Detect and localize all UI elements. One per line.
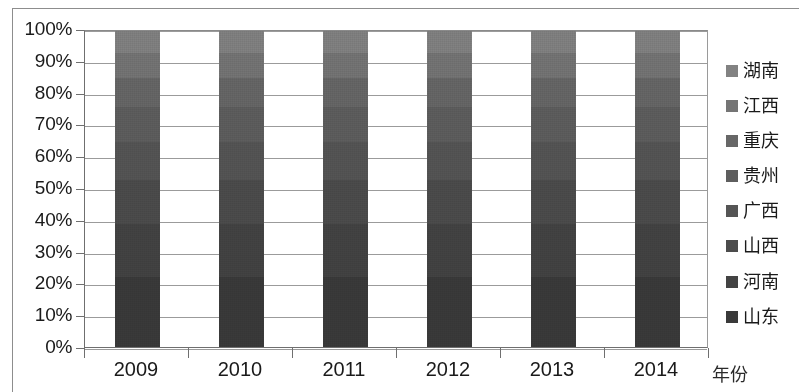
bar-group[interactable] [219, 31, 264, 347]
bar-segment[interactable] [115, 107, 160, 142]
legend-item[interactable]: 山西 [726, 238, 799, 255]
bar-segment[interactable] [427, 277, 472, 347]
gridline [85, 254, 707, 255]
bar-segment[interactable] [635, 78, 680, 106]
bar-segment[interactable] [323, 31, 368, 53]
chart-legend: 湖南江西重庆贵州广西山西河南山东 [726, 62, 799, 344]
legend-item[interactable]: 江西 [726, 97, 799, 114]
bar-segment[interactable] [219, 224, 264, 278]
bar-segment[interactable] [427, 31, 472, 53]
stacked-bar[interactable] [427, 31, 472, 347]
bar-segment[interactable] [635, 53, 680, 78]
bar-segment[interactable] [635, 224, 680, 278]
bar-group[interactable] [427, 31, 472, 347]
legend-item-label: 广西 [743, 202, 779, 220]
bar-segment[interactable] [427, 224, 472, 278]
y-axis-tick-label: 100% [8, 18, 72, 40]
bar-segment[interactable] [635, 142, 680, 180]
gridline [85, 31, 707, 32]
y-axis-tick-label: 80% [8, 82, 72, 104]
x-axis-tick-label: 2014 [604, 358, 708, 381]
gridline [85, 317, 707, 318]
bar-segment[interactable] [635, 180, 680, 224]
x-axis-tick-label: 2012 [396, 358, 500, 381]
bar-segment[interactable] [427, 107, 472, 142]
legend-item[interactable]: 山东 [726, 308, 799, 325]
stacked-bar[interactable] [219, 31, 264, 347]
bar-segment[interactable] [635, 277, 680, 347]
bar-segment[interactable] [219, 107, 264, 142]
bar-segment[interactable] [323, 142, 368, 180]
bar-segment[interactable] [427, 142, 472, 180]
bar-segment[interactable] [115, 277, 160, 347]
bar-group[interactable] [531, 31, 576, 347]
bar-segment[interactable] [427, 78, 472, 106]
bar-segment[interactable] [531, 53, 576, 78]
gridline [85, 222, 707, 223]
plot-area [84, 30, 708, 348]
bar-segment[interactable] [115, 224, 160, 278]
bar-segment[interactable] [219, 31, 264, 53]
stacked-bar[interactable] [635, 31, 680, 347]
stacked-bar[interactable] [115, 31, 160, 347]
bar-segment[interactable] [531, 78, 576, 106]
bar-segment[interactable] [323, 180, 368, 224]
bar-segment[interactable] [115, 142, 160, 180]
legend-item-label: 江西 [743, 97, 779, 115]
stacked-bar[interactable] [531, 31, 576, 347]
x-axis-tick [188, 348, 189, 358]
gridline [85, 190, 707, 191]
bar-group[interactable] [635, 31, 680, 347]
bar-segment[interactable] [115, 180, 160, 224]
stacked-bar[interactable] [323, 31, 368, 347]
legend-item[interactable]: 广西 [726, 203, 799, 220]
bar-segment[interactable] [115, 31, 160, 53]
bar-segment[interactable] [635, 107, 680, 142]
bar-segment[interactable] [323, 53, 368, 78]
legend-swatch-icon [726, 170, 738, 182]
bar-segment[interactable] [427, 180, 472, 224]
y-axis-tick-label: 40% [8, 209, 72, 231]
legend-item[interactable]: 湖南 [726, 62, 799, 79]
bar-segment[interactable] [531, 31, 576, 53]
bar-segment[interactable] [219, 180, 264, 224]
bar-segment[interactable] [115, 53, 160, 78]
legend-swatch-icon [726, 276, 738, 288]
gridline [85, 126, 707, 127]
bar-segment[interactable] [635, 31, 680, 53]
bar-segment[interactable] [323, 277, 368, 347]
x-axis-tick-label: 2010 [188, 358, 292, 381]
bar-group[interactable] [115, 31, 160, 347]
bar-segment[interactable] [427, 53, 472, 78]
stacked-column-chart: 100%90%80%70%60%50%40%30%20%10%0% 200920… [0, 0, 799, 392]
bar-segment[interactable] [219, 142, 264, 180]
bar-segment[interactable] [531, 142, 576, 180]
legend-item[interactable]: 重庆 [726, 132, 799, 149]
bar-segment[interactable] [219, 53, 264, 78]
y-axis-tick-label: 30% [8, 241, 72, 263]
legend-item-label: 重庆 [743, 132, 779, 150]
legend-item[interactable]: 贵州 [726, 168, 799, 185]
legend-item-label: 山西 [743, 237, 779, 255]
bar-segment[interactable] [323, 224, 368, 278]
bar-segment[interactable] [115, 78, 160, 106]
y-axis-tick-label: 0% [8, 336, 72, 358]
x-axis-tick [604, 348, 605, 358]
bar-segment[interactable] [531, 224, 576, 278]
bar-segment[interactable] [323, 78, 368, 106]
x-axis-tick [84, 348, 85, 358]
bar-segment[interactable] [219, 277, 264, 347]
bar-segment[interactable] [531, 180, 576, 224]
x-axis-tick-label: 2013 [500, 358, 604, 381]
x-axis-tick-label: 2009 [84, 358, 188, 381]
bar-segment[interactable] [219, 78, 264, 106]
legend-item[interactable]: 河南 [726, 273, 799, 290]
y-axis-tick-label: 90% [8, 50, 72, 72]
legend-swatch-icon [726, 311, 738, 323]
x-axis-tick-label: 2011 [292, 358, 396, 381]
bar-segment[interactable] [323, 107, 368, 142]
bar-group[interactable] [323, 31, 368, 347]
legend-item-label: 山东 [743, 308, 779, 326]
bar-segment[interactable] [531, 107, 576, 142]
bar-segment[interactable] [531, 277, 576, 347]
